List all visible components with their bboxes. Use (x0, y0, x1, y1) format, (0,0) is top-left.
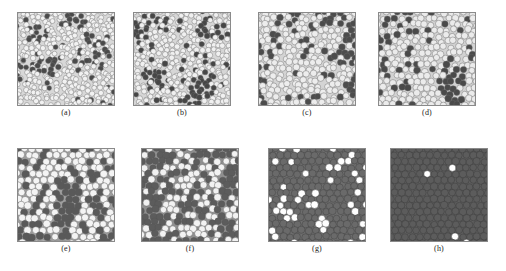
panel-f-image (141, 148, 239, 242)
panel-e-label: (e) (17, 244, 115, 254)
panel-g-image (268, 148, 366, 242)
panel-g (268, 148, 366, 242)
panel-c (258, 12, 356, 106)
panel-e (17, 148, 115, 242)
panel-d-label: (d) (378, 108, 476, 118)
panel-a-label: (a) (17, 108, 115, 118)
panel-h-label: (h) (390, 244, 488, 254)
panel-f (141, 148, 239, 242)
panel-a-image (17, 12, 115, 106)
panel-h-image (390, 148, 488, 242)
panel-d-image (378, 12, 476, 106)
panel-e-image (17, 148, 115, 242)
panel-a (17, 12, 115, 106)
panel-b-image (133, 12, 231, 106)
panel-b-label: (b) (133, 108, 231, 118)
panel-b (133, 12, 231, 106)
panel-c-image (258, 12, 356, 106)
panel-d (378, 12, 476, 106)
figure-container: (a)(b)(c)(d)(e)(f)(g)(h) (0, 0, 506, 271)
panel-h (390, 148, 488, 242)
panel-g-label: (g) (268, 244, 366, 254)
panel-c-label: (c) (258, 108, 356, 118)
panel-f-label: (f) (141, 244, 239, 254)
